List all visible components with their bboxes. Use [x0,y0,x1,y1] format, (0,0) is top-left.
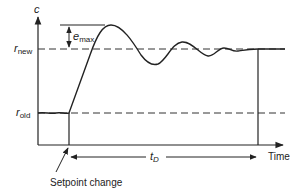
y-axis-label: c [34,3,40,15]
setpoint-change-pointer [56,148,68,172]
r-old-label: rold [16,106,30,120]
emax-label: emax [73,30,94,44]
td-label: tD [150,150,159,164]
r-new-label: rnew [14,42,33,56]
setpoint-change-label: Setpoint change [50,177,123,188]
x-axis-label: Time [268,151,290,162]
step-response-diagram: c Time rnew rold emax tD Setpoint change [0,0,302,190]
